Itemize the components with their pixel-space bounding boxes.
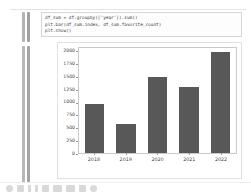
bar — [116, 124, 135, 153]
x-axis-tick-label: 2021 — [183, 157, 195, 163]
y-axis-tick-mark — [76, 51, 78, 52]
y-axis-tick-label: 1250 — [63, 87, 75, 93]
bar-slot — [173, 48, 204, 153]
x-axis-tick: 2019 — [110, 154, 142, 168]
bar-slot — [205, 48, 236, 153]
bars-layer — [79, 48, 236, 153]
editor-icon[interactable] — [53, 185, 62, 192]
output-cell-indicator-right — [27, 46, 30, 183]
y-axis-tick-mark — [76, 90, 78, 91]
x-axis-tick-mark — [189, 153, 190, 155]
cell-gutter — [22, 10, 36, 180]
x-axis-tick-mark — [221, 153, 222, 155]
bar-slot — [110, 48, 141, 153]
viewport-top-divider — [10, 9, 246, 10]
x-axis-tick: 2020 — [142, 154, 174, 168]
files-icon[interactable] — [28, 185, 31, 192]
y-axis-tick-label: 1750 — [63, 61, 75, 67]
x-axis-tick-label: 2020 — [151, 157, 163, 163]
bar — [85, 104, 104, 153]
x-axis-tick-label: 2018 — [88, 157, 100, 163]
code-line-3: plt.show() — [45, 28, 238, 35]
x-axis-tick-mark — [94, 153, 95, 155]
code-cell-indicator-left — [22, 12, 25, 42]
search-icon[interactable] — [17, 185, 24, 192]
y-axis-tick-label: 1500 — [63, 74, 75, 80]
y-axis-tick-label: 1000 — [63, 99, 75, 105]
x-axis: 20182019202020212022 — [78, 154, 237, 168]
browser-icon[interactable] — [42, 185, 49, 192]
y-axis-tick-mark — [76, 141, 78, 142]
x-axis-tick-label: 2019 — [120, 157, 132, 163]
code-line-1: df_sum = df.groupby(['year']).sum() — [45, 15, 238, 22]
x-axis-tick-mark — [126, 153, 127, 155]
y-axis-tick-label: 0 — [72, 151, 75, 157]
x-axis-tick-label: 2022 — [215, 157, 227, 163]
x-axis-tick: 2018 — [78, 154, 110, 168]
y-axis-tick-mark — [76, 115, 78, 116]
code-cell[interactable]: df_sum = df.groupby(['year']).sum() plt.… — [41, 12, 242, 37]
code-cell-indicator-right — [27, 12, 30, 42]
y-axis-tick-mark — [76, 64, 78, 65]
y-axis-tick-label: 250 — [66, 138, 75, 144]
start-icon[interactable] — [6, 185, 13, 192]
y-axis-tick-label: 750 — [66, 112, 75, 118]
notebook-page: df_sum = df.groupby(['year']).sum() plt.… — [0, 0, 251, 183]
terminal-icon[interactable] — [35, 185, 38, 192]
mail-icon[interactable] — [66, 185, 75, 192]
x-axis-tick: 2021 — [173, 154, 205, 168]
bar-slot — [79, 48, 110, 153]
chart-output-cell: 025050075010001250150017502000 201820192… — [57, 42, 242, 179]
bar — [148, 77, 167, 153]
bar-slot — [142, 48, 173, 153]
taskbar — [0, 182, 251, 196]
bar-chart: 025050075010001250150017502000 201820192… — [78, 47, 237, 168]
x-axis-tick: 2022 — [205, 154, 237, 168]
code-line-2: plt.bar(df_sum.index, df_sum.favorite_co… — [45, 22, 238, 29]
y-axis-tick-label: 500 — [66, 125, 75, 131]
y-axis-tick-label: 2000 — [63, 48, 75, 54]
bar — [179, 87, 198, 153]
taskbar-icon-group — [6, 185, 97, 192]
x-axis-tick-mark — [157, 153, 158, 155]
y-axis-tick-mark — [76, 128, 78, 129]
y-axis-tick-mark — [76, 103, 78, 104]
output-cell-indicator-left — [22, 46, 25, 183]
bar — [211, 52, 230, 153]
y-axis-tick-mark — [76, 77, 78, 78]
music-icon[interactable] — [79, 185, 86, 192]
settings-icon[interactable] — [90, 185, 97, 192]
